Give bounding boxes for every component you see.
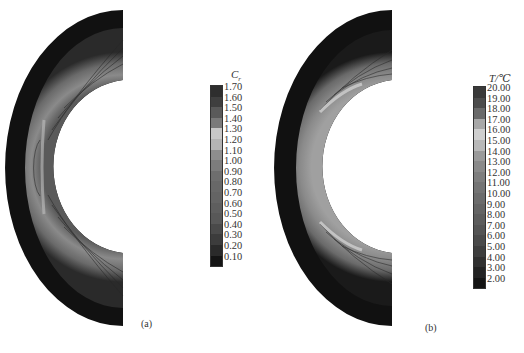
colorbar-swatch <box>211 224 222 235</box>
colorbar-swatch <box>474 235 485 246</box>
panel-label-a: (a) <box>141 318 152 329</box>
colorbar-tick-label: 15.00 <box>487 136 510 147</box>
colorbar-swatch <box>474 108 485 119</box>
colorbar-tick-label: 2.00 <box>487 274 510 285</box>
colorbar-swatch <box>474 140 485 151</box>
colorbar-swatch <box>211 160 222 171</box>
colorbar-tick-label: 1.20 <box>224 135 242 146</box>
colorbar-swatches-b <box>473 86 486 289</box>
colorbar-swatch <box>211 234 222 245</box>
colorbar-swatch <box>211 118 222 129</box>
colorbar-swatch <box>211 171 222 182</box>
colorbar-swatch <box>474 204 485 215</box>
colorbar-swatch <box>211 192 222 203</box>
colorbar-tick-label: 0.70 <box>224 188 242 199</box>
colorbar-swatch <box>474 193 485 204</box>
colorbar-swatch <box>474 87 485 98</box>
colorbar-tick-label: 1.70 <box>224 82 242 93</box>
colorbar-swatch <box>474 151 485 162</box>
colorbar-swatch <box>474 182 485 193</box>
colorbar-swatch <box>474 278 485 289</box>
colorbar-swatch <box>211 245 222 256</box>
colorbar-labels-a: 1.701.601.501.401.301.201.101.000.900.80… <box>224 82 242 262</box>
colorbar-swatch <box>474 161 485 172</box>
colorbar-swatch <box>211 181 222 192</box>
colorbar-swatch <box>474 119 485 130</box>
colorbar-swatch <box>474 246 485 257</box>
panel-a: Cr 1.701.601.501.401.301.201.101.000.900… <box>0 0 262 340</box>
colorbar-swatch <box>211 128 222 139</box>
colorbar-swatch <box>211 97 222 108</box>
colorbar-swatch <box>474 267 485 278</box>
colorbar-labels-b: 20.0019.0018.0017.0016.0015.0014.0013.00… <box>487 83 510 284</box>
colorbar-swatch <box>474 129 485 140</box>
colorbar-tick-label: 10.00 <box>487 189 510 200</box>
colorbar-swatches-a <box>210 85 223 267</box>
colorbar-swatch <box>474 214 485 225</box>
colorbar-swatch <box>474 225 485 236</box>
colorbar-swatch <box>474 98 485 109</box>
colorbar-tick-label: 0.20 <box>224 241 242 252</box>
colorbar-swatch <box>211 203 222 214</box>
colorbar-tick-label: 20.00 <box>487 83 510 94</box>
colorbar-swatch <box>211 150 222 161</box>
colorbar-swatch <box>211 107 222 118</box>
colorbar-swatch <box>211 213 222 224</box>
panel-label-b: (b) <box>425 322 437 333</box>
colorbar-tick-label: 0.10 <box>224 252 242 263</box>
colorbar-swatch <box>211 86 222 97</box>
colorbar-swatch <box>474 257 485 268</box>
colorbar-swatch <box>211 256 222 267</box>
colorbar-swatch <box>474 172 485 183</box>
colorbar-tick-label: 5.00 <box>487 242 510 253</box>
colorbar-swatch <box>211 139 222 150</box>
panel-b: T/℃ 20.0019.0018.0017.0016.0015.0014.001… <box>262 0 524 340</box>
